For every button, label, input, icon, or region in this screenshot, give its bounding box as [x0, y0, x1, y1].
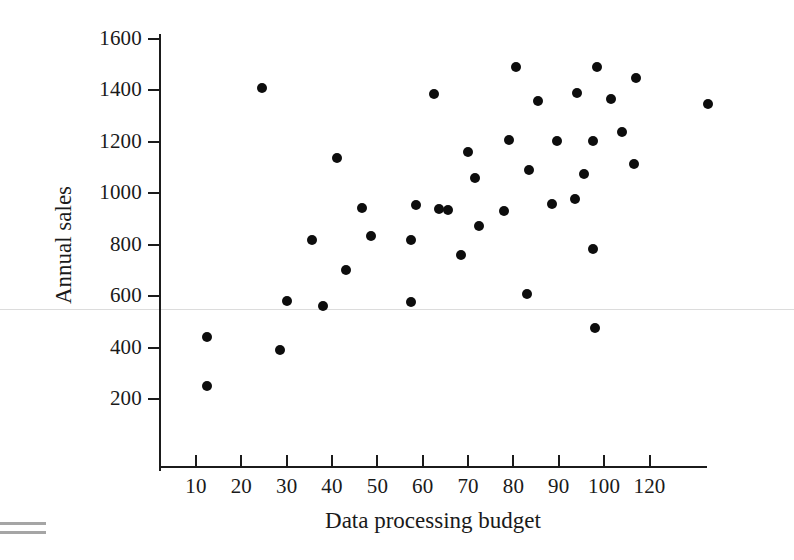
data-point	[703, 99, 713, 109]
data-point	[307, 235, 317, 245]
y-axis-tick-label: 800	[86, 234, 142, 255]
data-point	[592, 62, 602, 72]
y-axis-tick-label: 1200	[86, 131, 142, 152]
y-axis-line	[159, 34, 161, 471]
x-axis-tick	[195, 455, 197, 466]
data-point	[202, 381, 212, 391]
data-point	[463, 147, 473, 157]
data-point	[366, 231, 376, 241]
data-point	[572, 88, 582, 98]
data-point	[357, 203, 367, 213]
x-axis-tick	[240, 455, 242, 466]
data-point	[443, 205, 453, 215]
x-axis-tick	[512, 455, 514, 466]
data-point	[411, 200, 421, 210]
data-point	[629, 159, 639, 169]
data-point	[474, 221, 484, 231]
data-point	[406, 297, 416, 307]
y-axis-tick-label-wrap: 1400	[80, 79, 142, 100]
data-point	[275, 345, 285, 355]
data-point	[533, 96, 543, 106]
y-axis-tick-label-wrap: 600	[80, 285, 142, 306]
y-axis-tick	[148, 192, 159, 194]
data-point	[579, 169, 589, 179]
data-point	[429, 89, 439, 99]
data-point	[470, 173, 480, 183]
x-axis-tick	[286, 455, 288, 466]
y-axis-tick	[148, 89, 159, 91]
y-axis-tick-label-wrap: 400	[80, 337, 142, 358]
x-axis-title: Data processing budget	[159, 508, 707, 534]
data-point	[456, 250, 466, 260]
data-point	[332, 153, 342, 163]
x-axis-tick	[331, 455, 333, 466]
y-axis-tick	[148, 295, 159, 297]
scatter-plot-figure: 2004006008001000120014001600 10203040506…	[0, 0, 794, 560]
data-point	[202, 332, 212, 342]
data-point	[406, 235, 416, 245]
data-point	[547, 199, 557, 209]
y-axis-tick	[148, 347, 159, 349]
x-axis-tick	[376, 455, 378, 466]
y-axis-tick-label: 400	[86, 337, 142, 358]
x-axis-tick	[467, 455, 469, 466]
data-point	[631, 73, 641, 83]
data-point	[318, 301, 328, 311]
y-axis-tick-label-wrap: 800	[80, 234, 142, 255]
y-axis-tick-label-wrap: 1200	[80, 131, 142, 152]
x-axis-tick	[603, 455, 605, 466]
y-axis-tick	[148, 398, 159, 400]
data-point	[570, 194, 580, 204]
data-point	[257, 83, 267, 93]
data-point	[617, 127, 627, 137]
y-axis-title: Annual sales	[51, 145, 77, 345]
data-point	[588, 136, 598, 146]
y-axis-tick-label-wrap: 1000	[80, 182, 142, 203]
y-axis-tick-label: 1600	[86, 28, 142, 49]
y-axis-tick-label: 1400	[86, 79, 142, 100]
data-point	[522, 289, 532, 299]
data-point	[588, 244, 598, 254]
y-axis-tick	[148, 244, 159, 246]
data-point	[499, 206, 509, 216]
data-point	[282, 296, 292, 306]
data-point	[524, 165, 534, 175]
x-axis-line	[159, 466, 707, 468]
y-axis-tick	[148, 38, 159, 40]
y-axis-tick	[148, 141, 159, 143]
data-point	[341, 265, 351, 275]
plot-area: 2004006008001000120014001600 10203040506…	[0, 0, 794, 560]
y-axis-tick-label-wrap: 200	[80, 388, 142, 409]
x-axis-tick	[422, 455, 424, 466]
y-axis-tick-label: 1000	[86, 182, 142, 203]
data-point	[511, 62, 521, 72]
x-axis-tick-label: 120	[620, 474, 680, 498]
y-axis-tick-label: 600	[86, 285, 142, 306]
x-axis-tick	[649, 455, 651, 466]
y-axis-tick-label: 200	[86, 388, 142, 409]
data-point	[552, 136, 562, 146]
y-axis-tick-label-wrap: 1600	[80, 28, 142, 49]
data-point	[504, 135, 514, 145]
data-point	[606, 94, 616, 104]
data-point	[590, 323, 600, 333]
x-axis-tick	[558, 455, 560, 466]
